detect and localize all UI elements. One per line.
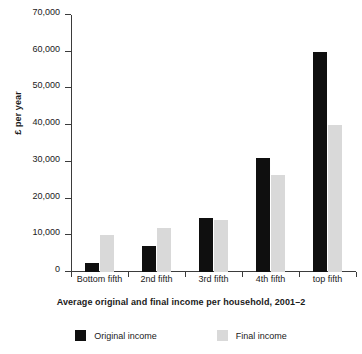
y-axis-tick-label: 20,000 [32, 191, 60, 201]
chart-caption: Average original and final income per ho… [0, 297, 362, 307]
y-axis-tick-label: 0 [55, 264, 60, 274]
bar [214, 220, 228, 273]
y-axis-tick: 10,000 [65, 234, 71, 235]
legend-swatch-0 [75, 330, 86, 341]
y-axis-tick: 70,000 [65, 14, 71, 15]
bar-group [142, 15, 171, 272]
y-axis-tick-label: 60,000 [32, 44, 60, 54]
y-axis-tick-label: 30,000 [32, 154, 60, 164]
y-axis-title: £ per year [13, 73, 23, 153]
y-axis-tick: 40,000 [65, 124, 71, 125]
y-axis-tick: 30,000 [65, 161, 71, 162]
bar [85, 263, 99, 272]
legend-label: Original income [94, 331, 157, 341]
bar-group [313, 15, 342, 272]
bar-group [199, 15, 228, 272]
bar [328, 125, 342, 272]
legend-item: Final income [217, 330, 287, 341]
y-axis-tick-label: 40,000 [32, 117, 60, 127]
plot-area: 010,00020,00030,00040,00050,00060,00070,… [71, 15, 356, 272]
y-axis-tick-label: 70,000 [32, 7, 60, 17]
legend-label: Final income [236, 331, 287, 341]
bar [256, 158, 270, 272]
y-axis-line [71, 15, 72, 272]
y-axis-tick: 20,000 [65, 198, 71, 199]
y-axis-tick: 50,000 [65, 87, 71, 88]
legend-swatch-1 [217, 330, 228, 341]
bar [199, 218, 213, 272]
bar-group [85, 15, 114, 272]
x-axis-category-label: top fifth [285, 274, 362, 284]
chart-legend: Original incomeFinal income [0, 330, 362, 341]
y-axis-tick-label: 50,000 [32, 80, 60, 90]
bar [100, 235, 114, 272]
bar-group [256, 15, 285, 272]
bar [313, 52, 327, 272]
bar [271, 175, 285, 272]
bar-chart-figure: £ per year 010,00020,00030,00040,00050,0… [0, 0, 362, 354]
bar [142, 246, 156, 272]
bar [157, 228, 171, 272]
y-axis-tick-label: 10,000 [32, 227, 60, 237]
y-axis-tick: 60,000 [65, 51, 71, 52]
legend-item: Original income [75, 330, 157, 341]
